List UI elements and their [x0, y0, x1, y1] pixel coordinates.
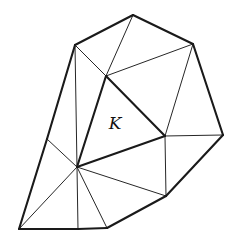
interior-edge [165, 135, 223, 136]
element-edge [77, 76, 106, 167]
boundary-edge [19, 139, 47, 229]
boundary-edge [166, 135, 223, 196]
boundary-edge [47, 45, 75, 139]
interior-edge [106, 44, 193, 76]
interior-edge [77, 167, 78, 229]
boundary-edge [107, 196, 166, 228]
interior-edge [165, 44, 193, 136]
element-label-k: K [108, 113, 123, 133]
interior-edge [75, 45, 77, 167]
interior-edge [165, 136, 166, 196]
interior-edge [47, 139, 77, 167]
boundary-edge [193, 44, 223, 135]
boundary-edge [78, 228, 107, 229]
interior-edge [75, 45, 106, 76]
boundary-edge [133, 15, 193, 44]
interior-edge [77, 167, 166, 196]
mesh-diagram: K [0, 0, 241, 238]
interior-edge [77, 167, 107, 228]
interior-edge [106, 15, 133, 76]
element-edge [77, 136, 165, 167]
boundary-edge [75, 15, 133, 45]
